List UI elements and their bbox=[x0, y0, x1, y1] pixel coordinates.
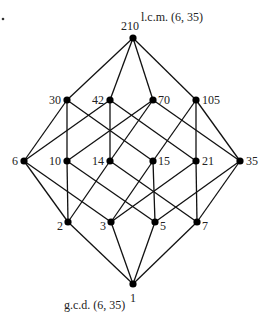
edge-42-21 bbox=[110, 100, 196, 161]
node-label-7: 7 bbox=[202, 219, 208, 233]
node-label-21: 21 bbox=[202, 154, 214, 168]
gcd-annotation: g.c.d. (6, 35) bbox=[64, 298, 125, 312]
node-label-1: 1 bbox=[130, 291, 136, 305]
node-label-3: 3 bbox=[100, 219, 106, 233]
node-label-210: 210 bbox=[121, 19, 139, 33]
node-label-70: 70 bbox=[158, 93, 170, 107]
edge-14-2 bbox=[68, 161, 110, 222]
edge-210-30 bbox=[67, 38, 133, 100]
node-label-14: 14 bbox=[92, 154, 104, 168]
node-label-35: 35 bbox=[246, 154, 258, 168]
node-label-6: 6 bbox=[12, 154, 18, 168]
edge-10-5 bbox=[67, 161, 155, 222]
node-21 bbox=[192, 157, 199, 164]
node-6 bbox=[20, 157, 27, 164]
edge-105-35 bbox=[196, 100, 240, 161]
stray-dot bbox=[2, 18, 5, 21]
lattice-diagram: 2103042701056101415213523571 l.c.m. (6, … bbox=[0, 0, 261, 327]
node-10 bbox=[63, 157, 70, 164]
node-label-2: 2 bbox=[57, 219, 63, 233]
lcm-annotation: l.c.m. (6, 35) bbox=[141, 10, 203, 24]
edge-6-2 bbox=[24, 161, 68, 222]
edge-5-1 bbox=[133, 222, 155, 284]
node-label-105: 105 bbox=[202, 93, 220, 107]
edge-210-42 bbox=[110, 38, 133, 100]
edge-3-1 bbox=[111, 222, 133, 284]
edge-35-7 bbox=[197, 161, 240, 222]
node-35 bbox=[236, 157, 243, 164]
node-210 bbox=[129, 34, 136, 41]
node-105 bbox=[192, 96, 199, 103]
node-label-42: 42 bbox=[92, 93, 104, 107]
node-7 bbox=[193, 218, 200, 225]
edge-70-14 bbox=[110, 100, 153, 161]
node-5 bbox=[151, 218, 158, 225]
node-15 bbox=[149, 157, 156, 164]
edge-15-3 bbox=[111, 161, 153, 222]
node-70 bbox=[149, 96, 156, 103]
node-label-30: 30 bbox=[49, 93, 61, 107]
node-30 bbox=[63, 96, 70, 103]
edge-105-15 bbox=[153, 100, 196, 161]
node-1 bbox=[129, 280, 136, 287]
node-label-10: 10 bbox=[49, 154, 61, 168]
node-2 bbox=[64, 218, 71, 225]
node-42 bbox=[106, 96, 113, 103]
edge-30-6 bbox=[24, 100, 67, 161]
node-14 bbox=[106, 157, 113, 164]
node-label-5: 5 bbox=[160, 219, 166, 233]
edge-10-2 bbox=[67, 161, 68, 222]
node-label-15: 15 bbox=[158, 154, 170, 168]
lattice-labels: 2103042701056101415213523571 bbox=[12, 19, 258, 305]
node-3 bbox=[107, 218, 114, 225]
